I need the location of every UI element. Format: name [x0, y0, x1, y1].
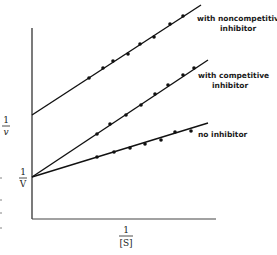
- svg-text:1: 1: [20, 167, 26, 177]
- y-axis-label: 1 v: [2, 115, 10, 137]
- lineweaver-burk-plot: with noncompetitive inhibitor with compe…: [0, 0, 277, 255]
- y-intercept-label: 1 V: [19, 167, 27, 189]
- label-competitive-line1: with competitive: [198, 71, 269, 80]
- label-no-inhibitor: no inhibitor: [198, 130, 248, 139]
- svg-text:1: 1: [123, 225, 129, 235]
- svg-text:v: v: [3, 127, 8, 137]
- label-competitive-line2: inhibitor: [212, 81, 248, 90]
- left-edge-marks: [0, 178, 2, 228]
- label-noncompetitive-line1: with noncompetitive: [197, 14, 277, 23]
- line-no-inhibitor: [32, 123, 208, 177]
- line-noncompetitive: [32, 5, 201, 115]
- line-competitive: [32, 60, 208, 177]
- svg-text:1: 1: [3, 115, 9, 125]
- x-axis-label: 1 [S]: [119, 225, 133, 248]
- label-noncompetitive-line2: inhibitor: [220, 24, 256, 33]
- points-no-inhibitor: [95, 129, 193, 159]
- svg-text:V: V: [19, 179, 27, 189]
- svg-text:[S]: [S]: [119, 238, 132, 248]
